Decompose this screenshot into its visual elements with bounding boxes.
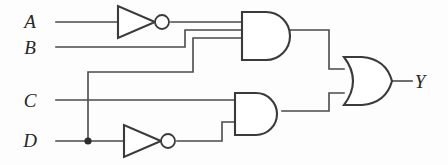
inverter-d-triangle — [124, 125, 161, 157]
junction-dot-d — [84, 137, 91, 144]
inverter-a-triangle — [118, 6, 155, 38]
or-gate-output[interactable] — [344, 57, 392, 105]
inverter-a-bubble — [155, 15, 169, 29]
logic-circuit-diagram: A B C D Y — [0, 0, 448, 165]
and-gate-bottom-body — [235, 93, 277, 135]
circuit-canvas — [0, 0, 448, 165]
and-gate-top[interactable] — [242, 12, 290, 60]
or-gate-body — [344, 57, 392, 105]
inverter-d-bubble — [161, 134, 175, 148]
inverter-d[interactable] — [124, 125, 175, 157]
and-gate-bottom[interactable] — [235, 93, 277, 135]
wire-d-branch-to-and-top — [88, 38, 242, 141]
inverter-a[interactable] — [118, 6, 169, 38]
and-gate-top-body — [242, 12, 290, 60]
wire-not-d-to-and-bottom — [177, 122, 235, 141]
wire-and-top-to-or — [289, 30, 344, 69]
wire-and-bottom-to-or — [282, 93, 344, 111]
